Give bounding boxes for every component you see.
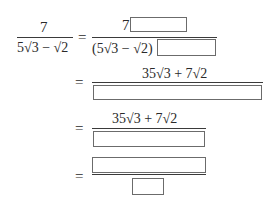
step4-fraction-bar	[92, 174, 206, 175]
step2-fraction-bar	[92, 82, 263, 83]
equals-sign-4: =	[75, 169, 83, 184]
step3-numerator: 35√3 + 7√2	[112, 111, 177, 126]
lhs-fraction-bar	[17, 37, 73, 38]
step1-denominator-prefix: (5√3 − √2)	[92, 41, 153, 56]
step4-numerator-input[interactable]	[92, 157, 206, 173]
equals-sign-1: =	[78, 30, 86, 45]
step2-numerator: 35√3 + 7√2	[142, 66, 207, 81]
step3-denominator-input[interactable]	[93, 131, 205, 147]
step4-denominator-input[interactable]	[132, 178, 164, 195]
step1-denominator-input[interactable]	[157, 39, 216, 56]
step3-fraction-bar	[92, 128, 206, 129]
step1-fraction-bar	[92, 37, 217, 38]
step1-numerator-input[interactable]	[130, 17, 187, 32]
lhs-denominator: 5√3 − √2	[17, 40, 68, 55]
step1-numerator-prefix: 7	[122, 18, 130, 33]
lhs-numerator: 7	[40, 20, 48, 35]
equals-sign-3: =	[75, 121, 83, 136]
equals-sign-2: =	[75, 75, 83, 90]
step2-denominator-input[interactable]	[93, 85, 262, 100]
